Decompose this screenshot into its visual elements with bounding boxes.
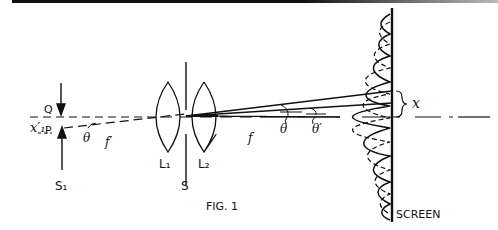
label-theta-prime: θ′ bbox=[312, 122, 322, 136]
q-arrow bbox=[57, 83, 65, 115]
label-slit-s: S bbox=[181, 179, 189, 193]
rays-to-screen bbox=[186, 91, 392, 117]
label-l2: L₂ bbox=[198, 157, 210, 171]
label-l1: L₁ bbox=[159, 157, 171, 171]
fringe-brace bbox=[396, 91, 407, 117]
optics-diagram: x′₁ Q P S₁ θ f′ L₁ L₂ S f θ θ′ x SCREEN … bbox=[0, 0, 498, 230]
label-f-prime: f′ bbox=[104, 135, 112, 149]
figure-caption: FIG. 1 bbox=[206, 200, 238, 213]
label-p: P bbox=[45, 124, 52, 137]
label-theta-left: θ bbox=[83, 131, 91, 145]
label-x-prime-1: x′₁ bbox=[30, 120, 46, 135]
s1-arrow bbox=[58, 127, 66, 170]
label-x: x bbox=[412, 95, 420, 111]
label-s1: S₁ bbox=[55, 179, 68, 193]
label-screen: SCREEN bbox=[396, 208, 440, 221]
label-theta-right: θ bbox=[280, 122, 288, 136]
label-q: Q bbox=[44, 103, 53, 116]
label-f: f bbox=[247, 131, 255, 145]
